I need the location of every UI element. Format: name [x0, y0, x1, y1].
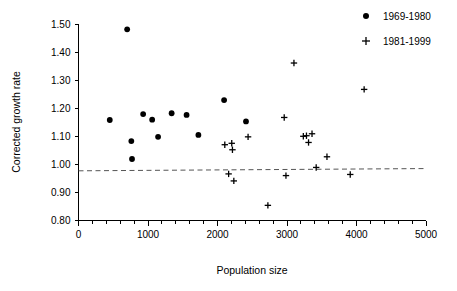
data-point-plus — [225, 171, 231, 177]
data-point-plus — [324, 154, 330, 160]
x-tick-label: 5000 — [415, 229, 438, 240]
data-point-plus — [283, 172, 289, 178]
data-point-plus — [309, 131, 315, 137]
chart-canvas: 0.800.901.001.101.201.301.401.50 0100020… — [0, 0, 457, 291]
x-tick-label: 4000 — [345, 229, 368, 240]
data-point-plus — [305, 139, 311, 145]
y-tick-label: 1.30 — [51, 75, 71, 86]
data-point-circle — [124, 26, 130, 32]
data-point-plus — [291, 60, 297, 66]
data-point-plus — [245, 134, 251, 140]
legend-label-1981-1999: 1981-1999 — [383, 36, 431, 47]
data-point-circle — [129, 156, 135, 162]
y-axis-ticks — [75, 24, 79, 221]
y-axis-title: Corrected growth rate — [10, 71, 22, 173]
axes-group — [78, 24, 426, 221]
y-tick-label: 1.40 — [51, 47, 71, 58]
x-tick-label: 3000 — [276, 229, 299, 240]
reference-line — [79, 169, 427, 171]
y-tick-label: 0.90 — [51, 187, 71, 198]
legend-marker-filled-circle-icon — [363, 13, 369, 19]
data-point-plus — [347, 171, 353, 177]
y-axis-tick-labels: 0.800.901.001.101.201.301.401.50 — [51, 19, 71, 227]
legend-label-1969-1980: 1969-1980 — [383, 11, 431, 22]
data-point-plus — [229, 140, 235, 146]
data-point-circle — [107, 117, 113, 123]
data-point-circle — [140, 111, 146, 117]
data-point-plus — [281, 114, 287, 120]
y-tick-label: 1.10 — [51, 131, 71, 142]
legend-marker-plus-icon — [362, 37, 370, 45]
data-point-plus — [231, 178, 237, 184]
y-tick-label: 1.00 — [51, 159, 71, 170]
scatter-plot-figure: 0.800.901.001.101.201.301.401.50 0100020… — [0, 0, 457, 291]
legend-entry-1969-1980: 1969-1980 — [363, 11, 431, 22]
y-tick-label: 1.50 — [51, 19, 71, 30]
data-point-plus — [229, 147, 235, 153]
x-tick-label: 0 — [76, 229, 82, 240]
data-point-circle — [155, 134, 161, 140]
data-point-circle — [243, 119, 249, 125]
reference-line-segment — [79, 169, 427, 171]
data-point-circle — [149, 117, 155, 123]
data-point-plus — [303, 133, 309, 139]
x-axis-title: Population size — [216, 264, 287, 276]
data-point-plus — [222, 142, 228, 148]
data-point-circle — [128, 138, 134, 144]
y-tick-label: 0.80 — [51, 215, 71, 226]
y-tick-label: 1.20 — [51, 103, 71, 114]
series-1969-1980-markers — [107, 26, 249, 161]
data-point-circle — [221, 97, 227, 103]
data-point-plus — [361, 86, 367, 92]
data-point-circle — [184, 112, 190, 118]
data-point-circle — [195, 132, 201, 138]
x-axis-ticks — [79, 221, 427, 226]
x-tick-label: 1000 — [137, 229, 160, 240]
series-1981-1999-markers — [222, 60, 368, 209]
legend-entry-1981-1999: 1981-1999 — [362, 36, 431, 47]
data-point-plus — [265, 202, 271, 208]
data-point-circle — [169, 110, 175, 116]
x-tick-label: 2000 — [206, 229, 229, 240]
legend: 1969-1980 1981-1999 — [362, 11, 431, 47]
x-axis-tick-labels: 010002000300040005000 — [76, 229, 438, 240]
